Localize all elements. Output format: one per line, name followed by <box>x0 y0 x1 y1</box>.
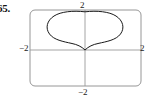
viewing-window-frame <box>30 10 141 86</box>
axis-label-right: 2 <box>140 44 145 53</box>
figure-container: 65. 2 −2 2 −2 <box>0 0 152 101</box>
axis-label-left: −2 <box>19 44 29 53</box>
axis-label-top: 2 <box>80 1 85 10</box>
axis-label-bottom: −2 <box>78 88 88 97</box>
